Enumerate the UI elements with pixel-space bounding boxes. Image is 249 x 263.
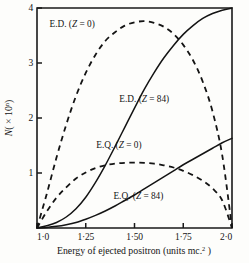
figure-container: 1·01·251·501·752·0 1234 E.D. (Z = 0)E.D.… xyxy=(0,0,249,263)
curve-label: E.Q. (Z = 0) xyxy=(96,140,141,151)
curve-label: E.D. (Z = 84) xyxy=(119,94,169,105)
y-tick-label: 3 xyxy=(28,58,33,68)
curve-label: E.D. (Z = 0) xyxy=(49,19,94,30)
y-tick-label: 4 xyxy=(28,3,33,13)
y-axis-tick-labels: 1234 xyxy=(28,3,33,178)
y-tick-label: 1 xyxy=(28,168,33,178)
curve-e-q-z-84 xyxy=(37,138,232,228)
chart-plot: 1·01·251·501·752·0 1234 E.D. (Z = 0)E.D.… xyxy=(0,0,249,263)
x-tick-label: 2·0 xyxy=(220,232,233,242)
y-tick-label: 2 xyxy=(28,113,33,123)
x-tick-label: 1·75 xyxy=(175,232,192,242)
x-tick-label: 1·25 xyxy=(77,232,94,242)
y-axis-title: N( × 10n) xyxy=(3,100,15,138)
x-axis-tick-labels: 1·01·251·501·752·0 xyxy=(37,232,232,242)
x-axis-title: Energy of ejected positron (units mc.2 ) xyxy=(57,242,211,257)
svg-text:N( × 10n): N( × 10n) xyxy=(3,100,15,138)
x-tick-label: 1·50 xyxy=(126,232,143,242)
curve-annotations: E.D. (Z = 0)E.D. (Z = 84)E.Q. (Z = 0)E.Q… xyxy=(49,19,169,203)
x-tick-label: 1·0 xyxy=(37,232,50,242)
svg-text:Energy of ejected positron (u: Energy of ejected positron (units mc.2 ) xyxy=(57,242,211,257)
curve-label: E.Q. (Z = 84) xyxy=(113,191,163,202)
